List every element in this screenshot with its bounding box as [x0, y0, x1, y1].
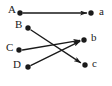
- node-dot-c: [82, 62, 87, 67]
- node-dot-C: [16, 47, 21, 52]
- node-label-A: A: [8, 4, 16, 15]
- graph-canvas: [0, 0, 112, 86]
- node-label-C: C: [6, 42, 13, 53]
- node-dot-b: [81, 37, 86, 42]
- node-dot-B: [25, 25, 30, 30]
- directed-graph-figure: A B C D a b c: [0, 0, 112, 86]
- node-label-D: D: [13, 59, 21, 70]
- nodes-group: [16, 10, 93, 69]
- node-dot-a: [88, 10, 93, 15]
- node-dot-D: [25, 64, 30, 69]
- node-label-B: B: [15, 19, 22, 30]
- node-label-a: a: [99, 6, 104, 17]
- node-label-c: c: [92, 58, 97, 69]
- edge-B-to-c: [31, 30, 81, 63]
- node-dot-A: [17, 10, 22, 15]
- edges-group: [23, 13, 87, 65]
- node-label-b: b: [91, 32, 97, 43]
